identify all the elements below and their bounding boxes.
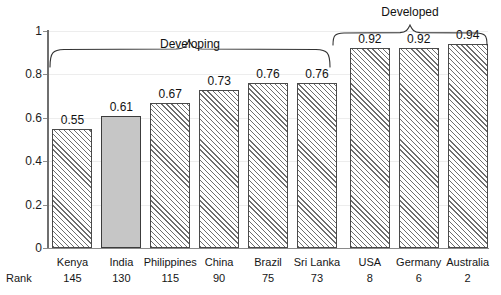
y-tick-0.6: 0.6 <box>0 112 42 124</box>
y-tick-mark-0 <box>43 248 47 249</box>
y-tick-label-0.6: 0.6 <box>2 112 42 124</box>
rank-value-usa: 8 <box>345 272 394 284</box>
bar-chart: 1 0.8 0.6 0.4 0.2 0 0.55Kenya1450.61Indi… <box>0 0 501 295</box>
rank-value-philippines: 115 <box>146 272 195 284</box>
y-tick-mark-0.4 <box>43 161 47 162</box>
y-tick-mark-0.6 <box>43 118 47 119</box>
bar-kenya <box>52 129 92 248</box>
bar-philippines <box>150 103 190 248</box>
rank-value-china: 90 <box>195 272 244 284</box>
y-tick-1: 1 <box>0 25 42 37</box>
y-tick-label-0: 0 <box>2 242 42 254</box>
bar-value-india: 0.61 <box>97 101 146 114</box>
y-tick-label-0.4: 0.4 <box>2 155 42 167</box>
y-tick-mark-0.8 <box>43 74 47 75</box>
rank-value-australia: 2 <box>443 272 492 284</box>
bar-value-sri-lanka: 0.76 <box>293 68 342 81</box>
rank-value-germany: 6 <box>394 272 443 284</box>
y-tick-mark-0.2 <box>43 205 47 206</box>
rank-row-title: Rank <box>6 272 44 284</box>
y-tick-mark-1 <box>43 31 47 32</box>
y-tick-0.4: 0.4 <box>0 155 42 167</box>
developing-label: Developing <box>48 38 332 51</box>
y-tick-label-0.8: 0.8 <box>2 68 42 80</box>
bar-usa <box>350 48 390 248</box>
bar-china <box>199 90 239 248</box>
rank-value-india: 130 <box>97 272 146 284</box>
developed-label: Developed <box>331 6 489 19</box>
developed-bracket <box>331 24 489 46</box>
bar-australia <box>448 44 488 248</box>
rank-value-kenya: 145 <box>48 272 97 284</box>
category-label-australia: Australia <box>437 256 498 268</box>
y-tick-label-1: 1 <box>2 25 42 37</box>
y-tick-0.8: 0.8 <box>0 68 42 80</box>
bar-brazil <box>248 83 288 248</box>
bar-value-brazil: 0.76 <box>244 68 293 81</box>
y-tick-label-0.2: 0.2 <box>2 199 42 211</box>
bar-value-kenya: 0.55 <box>48 114 97 127</box>
category-label-sri-lanka: Sri Lanka <box>287 256 348 268</box>
rank-value-brazil: 75 <box>244 272 293 284</box>
bar-sri-lanka <box>297 83 337 248</box>
bar-value-china: 0.73 <box>195 75 244 88</box>
y-tick-0.2: 0.2 <box>0 199 42 211</box>
rank-value-sri-lanka: 73 <box>293 272 342 284</box>
bar-value-philippines: 0.67 <box>146 88 195 101</box>
bar-germany <box>399 48 439 248</box>
bar-india <box>101 116 141 248</box>
y-tick-0: 0 <box>0 242 42 254</box>
